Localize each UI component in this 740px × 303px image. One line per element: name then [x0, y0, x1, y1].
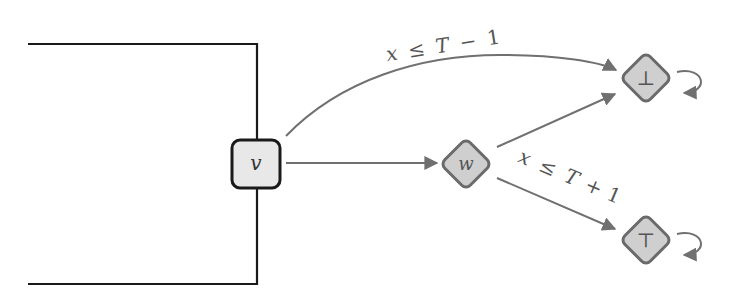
svg-text:x ≤ T +: x ≤ T + 1	[515, 144, 625, 209]
node-bottom[interactable]: ⊥	[621, 53, 672, 104]
node-v[interactable]: v	[232, 140, 280, 188]
label-le: ≤	[536, 153, 561, 182]
label-x: x	[384, 41, 399, 66]
node-top-label: ⊤	[637, 228, 656, 252]
node-w[interactable]: w	[441, 139, 492, 190]
label-x: x	[515, 144, 535, 171]
label-op: +	[582, 172, 607, 201]
diagram-canvas: v w ⊥ ⊤ x ≤ T − 1 x ≤ T + 1	[0, 0, 740, 303]
label-le: ≤	[406, 36, 426, 62]
label-n: 1	[604, 182, 625, 209]
edge-w-to-bottom	[497, 94, 615, 147]
label-n: 1	[485, 25, 501, 51]
edge-v-to-bottom	[286, 55, 616, 136]
label-T: T	[434, 32, 453, 58]
node-bottom-label: ⊥	[637, 66, 656, 90]
node-v-label: v	[250, 151, 262, 175]
node-top[interactable]: ⊤	[621, 215, 672, 266]
label-T: T	[561, 164, 584, 192]
edge-label-lower: x ≤ T + 1	[515, 144, 625, 209]
node-w-label: w	[458, 153, 474, 174]
self-loop-top	[677, 233, 701, 255]
self-loop-bottom	[677, 71, 701, 93]
label-op: −	[458, 28, 478, 54]
region-bracket	[28, 44, 257, 284]
